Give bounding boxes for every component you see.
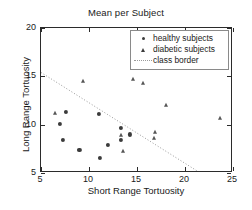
y-tick-mark: [41, 28, 45, 29]
data-point-diabetic: [81, 79, 85, 83]
y-axis-label: Long Range Tortuosity: [20, 35, 31, 175]
diabetic-triangle-icon: [133, 48, 153, 52]
x-tick-label: 15: [131, 174, 141, 184]
data-point-diabetic: [164, 103, 168, 107]
legend-item-class-border: class border: [133, 55, 226, 66]
dotted-line-icon: [133, 60, 153, 61]
x-tick-mark: [41, 167, 42, 171]
legend-item-diabetic: diabetic subjects: [133, 44, 226, 55]
chart-title: Mean per Subject: [0, 7, 252, 18]
x-tick-label: 20: [179, 174, 189, 184]
legend-label-diabetic: diabetic subjects: [153, 44, 215, 55]
x-axis-label: Short Range Tortuosity: [40, 185, 232, 196]
x-tick-mark: [233, 28, 234, 32]
data-point-diabetic: [152, 136, 156, 140]
y-tick-mark: [227, 125, 231, 126]
x-tick-mark: [185, 167, 186, 171]
chart-figure: Mean per Subject 510152025 5101520 Short…: [0, 0, 252, 210]
chart-legend: healthy subjects diabetic subjects class…: [130, 30, 229, 70]
data-point-diabetic: [218, 116, 222, 120]
data-point-diabetic: [153, 130, 157, 134]
y-tick-mark: [227, 76, 231, 77]
healthy-dot-icon: [133, 37, 153, 40]
y-tick-label: 20: [14, 22, 36, 32]
y-tick-mark: [41, 125, 45, 126]
x-tick-mark: [233, 167, 234, 171]
data-point-diabetic: [53, 111, 57, 115]
y-tick-mark: [227, 28, 231, 29]
x-tick-mark: [89, 28, 90, 32]
data-point-diabetic: [141, 81, 145, 85]
legend-item-healthy: healthy subjects: [133, 33, 226, 44]
x-tick-label: 10: [83, 174, 93, 184]
legend-label-class-border: class border: [153, 55, 199, 66]
data-point-diabetic: [119, 133, 123, 137]
legend-label-healthy: healthy subjects: [153, 33, 213, 44]
x-tick-label: 5: [37, 174, 42, 184]
data-point-diabetic: [131, 77, 135, 81]
x-tick-mark: [137, 167, 138, 171]
y-tick-mark: [41, 76, 45, 77]
data-point-diabetic: [121, 149, 125, 153]
x-tick-label: 25: [227, 174, 237, 184]
x-tick-mark: [89, 167, 90, 171]
